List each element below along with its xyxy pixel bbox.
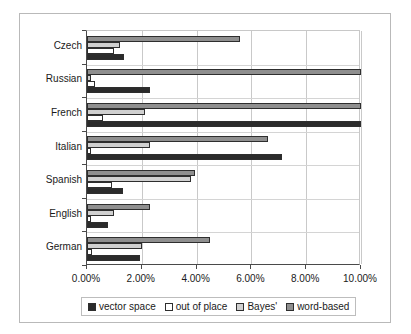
bar-russian-word-based	[87, 69, 361, 75]
x-axis-tick	[196, 265, 197, 269]
bar-russian-vector-space	[87, 87, 150, 93]
bar-fill	[87, 154, 282, 160]
chart-figure: CzechRussianFrenchItalianSpanishEnglishG…	[19, 13, 391, 323]
x-axis-label-2: 4.00%	[181, 273, 209, 284]
legend-swatch-icon	[286, 303, 294, 311]
bar-english-vector-space	[87, 222, 108, 228]
y-axis-tick	[82, 198, 86, 199]
bar-group-english	[87, 199, 359, 233]
x-axis-label-1: 2.00%	[127, 273, 155, 284]
legend-label: out of place	[176, 301, 228, 312]
legend-entry-word-based[interactable]: word-based	[286, 301, 349, 312]
y-axis-label-spanish: Spanish	[20, 174, 82, 185]
y-axis-tick	[82, 64, 86, 65]
bar-czech-vector-space	[87, 54, 124, 60]
x-axis-tick	[250, 265, 251, 269]
legend-entry-vector-space[interactable]: vector space	[88, 301, 156, 312]
legend-label: word-based	[297, 301, 349, 312]
bar-italian-vector-space	[87, 154, 282, 160]
y-axis-tick	[82, 97, 86, 98]
y-axis-label-czech: Czech	[20, 40, 82, 51]
y-axis-label-italian: Italian	[20, 141, 82, 152]
x-axis-label-0: 0.00%	[72, 273, 100, 284]
legend-entry-out-of-place[interactable]: out of place	[165, 301, 228, 312]
x-axis-tick	[305, 265, 306, 269]
bar-fill	[87, 222, 108, 228]
legend-label: vector space	[99, 301, 156, 312]
y-axis-label-russian: Russian	[20, 73, 82, 84]
bar-spanish-vector-space	[87, 188, 123, 194]
bar-german-vector-space	[87, 255, 140, 261]
bar-group-spanish	[87, 165, 359, 199]
bar-fill	[87, 255, 140, 261]
bar-fill	[87, 243, 142, 249]
bar-fill	[87, 69, 361, 75]
x-axis-label-4: 8.00%	[291, 273, 319, 284]
legend-swatch-icon	[88, 303, 96, 311]
bar-german-bayes-	[87, 243, 142, 249]
bar-group-french	[87, 98, 359, 132]
bar-group-czech	[87, 31, 359, 65]
bar-french-vector-space	[87, 121, 361, 127]
y-axis-label-english: English	[20, 208, 82, 219]
plot-area	[86, 30, 360, 265]
x-axis-label-3: 6.00%	[236, 273, 264, 284]
bar-fill	[87, 121, 361, 127]
x-axis-tick	[86, 265, 87, 269]
legend-entry-bayes-[interactable]: Bayes'	[236, 301, 277, 312]
y-axis-labels: CzechRussianFrenchItalianSpanishEnglishG…	[20, 30, 82, 265]
bar-group-russian	[87, 65, 359, 99]
bar-fill	[87, 188, 123, 194]
y-axis-tick	[82, 30, 86, 31]
x-axis-label-5: 10.00%	[343, 273, 377, 284]
bar-group-german	[87, 232, 359, 266]
y-axis-tick	[82, 131, 86, 132]
legend-label: Bayes'	[247, 301, 277, 312]
y-axis-tick	[82, 164, 86, 165]
y-axis-label-german: German	[20, 241, 82, 252]
bar-fill	[87, 54, 124, 60]
gridline	[361, 31, 362, 264]
x-axis-tick	[141, 265, 142, 269]
legend-swatch-icon	[165, 303, 173, 311]
chart-legend: vector spaceout of placeBayes'word-based	[81, 297, 356, 316]
bar-fill	[87, 142, 150, 148]
x-axis-labels: 0.00%2.00%4.00%6.00%8.00%10.00%	[20, 269, 392, 289]
bar-fill	[87, 87, 150, 93]
y-axis-label-french: French	[20, 107, 82, 118]
x-axis-tick	[360, 265, 361, 269]
y-axis-tick	[82, 231, 86, 232]
legend-swatch-icon	[236, 303, 244, 311]
bar-group-italian	[87, 132, 359, 166]
bar-italian-bayes-	[87, 142, 150, 148]
